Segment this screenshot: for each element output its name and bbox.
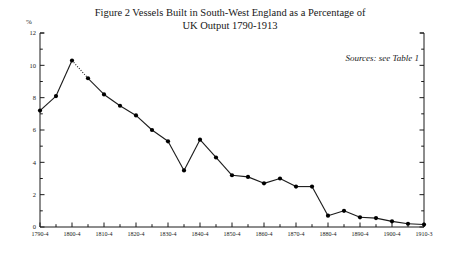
series-segment: [152, 130, 168, 141]
series-data-point: [262, 181, 266, 185]
series-data-point: [406, 222, 410, 226]
x-axis-tick-label: 1850-4: [224, 231, 241, 237]
series-segment-dotted: [72, 60, 88, 78]
series-data-point: [246, 175, 250, 179]
series-segment: [40, 96, 56, 111]
series-segment: [200, 140, 216, 158]
series-segment: [280, 179, 296, 187]
y-axis-tick-label: 4: [33, 159, 37, 166]
y-axis-tick-label: 8: [33, 94, 36, 101]
y-axis-tick-label: 12: [30, 29, 37, 36]
series-segment: [232, 175, 248, 177]
series-data-point: [310, 184, 314, 188]
series-data-point: [342, 209, 346, 213]
x-axis-tick-label: 1820-4: [128, 231, 145, 237]
series-segment: [392, 221, 408, 223]
series-segment: [168, 141, 184, 170]
x-axis-tick-label: 1890-4: [352, 231, 369, 237]
x-axis-tick-label: 1810-4: [96, 231, 113, 237]
series-data-point: [422, 222, 426, 226]
series-data-point: [374, 216, 378, 220]
chart-axes: [40, 33, 424, 227]
chart-series-markers: [38, 58, 426, 226]
y-axis-tick-label: 6: [33, 126, 37, 133]
series-data-point: [150, 128, 154, 132]
x-axis-tick-label: 1880-4: [320, 231, 337, 237]
series-data-point: [294, 184, 298, 188]
series-segment: [136, 115, 152, 130]
series-data-point: [198, 138, 202, 142]
chart-series-line: [40, 60, 424, 224]
series-segment: [328, 211, 344, 216]
x-axis-tick-label: 1840-4: [192, 231, 209, 237]
series-data-point: [118, 104, 122, 108]
series-data-point: [278, 176, 282, 180]
figure-container: Figure 2 Vessels Built in South-West Eng…: [0, 0, 457, 258]
series-data-point: [38, 109, 42, 113]
series-segment: [104, 94, 120, 105]
series-segment: [376, 218, 392, 221]
series-data-point: [214, 155, 218, 159]
series-data-point: [230, 173, 234, 177]
series-segment: [120, 106, 136, 116]
series-data-point: [358, 215, 362, 219]
x-axis-tick-label: 1870-4: [288, 231, 305, 237]
series-segment: [312, 187, 328, 216]
series-segment: [344, 211, 360, 217]
series-segment: [88, 78, 104, 94]
series-segment: [264, 179, 280, 184]
y-axis-tick-label: 10: [30, 62, 37, 69]
series-data-point: [102, 92, 106, 96]
series-segment: [56, 60, 72, 96]
series-segment: [360, 217, 376, 218]
series-segment: [408, 224, 424, 225]
series-segment: [248, 177, 264, 183]
x-axis-tick-label: 1910-3: [416, 231, 433, 237]
series-data-point: [54, 94, 58, 98]
x-axis-tick-label: 1830-4: [160, 231, 177, 237]
y-axis-tick-label: 0: [33, 223, 36, 230]
x-axis-tick-label: 1900-4: [384, 231, 401, 237]
series-data-point: [390, 219, 394, 223]
x-axis-tick-label: 1790-4: [32, 231, 49, 237]
series-data-point: [326, 214, 330, 218]
y-axis-tick-label: 2: [33, 191, 36, 198]
chart-tick-labels: 0246810121790-41800-41810-41820-41830-41…: [30, 29, 433, 237]
series-data-point: [70, 58, 74, 62]
series-data-point: [86, 76, 90, 80]
series-segment: [216, 157, 232, 175]
x-axis-tick-label: 1860-4: [256, 231, 273, 237]
series-data-point: [134, 113, 138, 117]
series-segment: [184, 140, 200, 171]
x-axis-tick-label: 1800-4: [64, 231, 81, 237]
series-data-point: [166, 139, 170, 143]
chart-plot-area: 0246810121790-41800-41810-41820-41830-41…: [0, 0, 457, 258]
series-data-point: [182, 168, 186, 172]
